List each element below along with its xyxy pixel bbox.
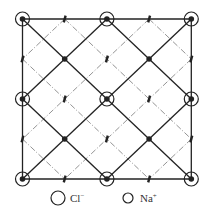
cl-ion-dot-icon [62,56,68,62]
cl-legend-icon [51,191,65,205]
na-ion-icon [20,135,24,142]
na-ion-icon [147,95,151,102]
cl-ion-dot-icon [104,96,110,102]
cl-ion-dot-icon [146,56,152,62]
cl-ion-dot-icon [20,16,26,22]
legend-symbols [51,191,133,205]
cl-ion-dot-icon [189,96,195,102]
cl-ion-dot-icon [62,136,68,142]
na-legend-icon [123,193,133,203]
na-ion-icon [189,55,193,62]
cl-ion-dot-icon [20,96,26,102]
na-ion-icon [189,135,193,142]
na-ion-icon [63,95,67,102]
legend-cl-label: Cl− [70,193,84,204]
na-ion-icon [105,135,109,142]
cl-ion-dot-icon [189,176,195,182]
cl-charge: − [80,192,84,200]
cl-text: Cl [70,192,80,204]
cl-ion-dot-icon [146,136,152,142]
legend-na-label: Na+ [140,193,157,204]
cl-ion-dot-icon [104,176,110,182]
cl-ion-dot-icon [20,176,26,182]
na-ion-icon [105,55,109,62]
cl-ion-dot-icon [189,16,195,22]
na-charge: + [153,192,157,200]
cl-ion-dot-icon [104,16,110,22]
nacl-lattice-diagram [0,0,210,213]
na-text: Na [140,192,153,204]
na-ion-icon [20,55,24,62]
